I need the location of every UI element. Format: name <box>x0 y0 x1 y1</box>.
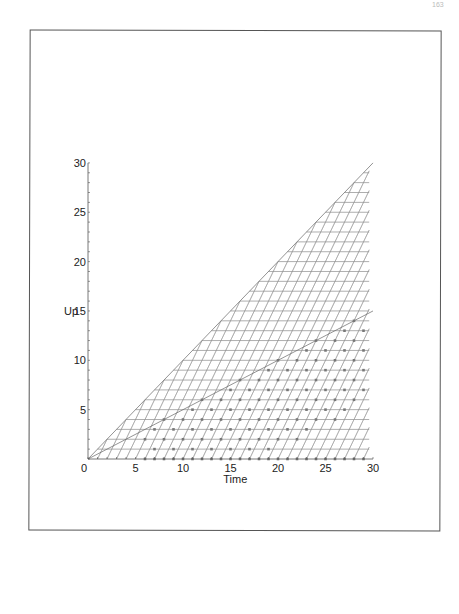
data-point <box>220 398 223 401</box>
data-point <box>296 418 299 421</box>
data-point <box>191 448 194 451</box>
data-point <box>324 369 327 372</box>
data-point <box>315 339 318 342</box>
data-point <box>286 428 289 431</box>
data-point <box>305 408 308 411</box>
data-point <box>277 418 280 421</box>
data-point <box>239 398 242 401</box>
data-point <box>182 438 185 441</box>
data-point <box>277 438 280 441</box>
data-point <box>229 408 232 411</box>
data-point <box>343 389 346 392</box>
data-point <box>248 448 251 451</box>
data-point <box>353 379 356 382</box>
data-point <box>267 369 270 372</box>
data-point <box>258 418 261 421</box>
data-point <box>305 349 308 352</box>
x-tick-label: 25 <box>319 462 331 474</box>
data-point <box>277 379 280 382</box>
data-point <box>163 418 166 421</box>
data-point <box>201 398 204 401</box>
data-point <box>343 369 346 372</box>
data-point <box>362 349 365 352</box>
data-point <box>182 418 185 421</box>
data-point <box>229 448 232 451</box>
y-tick-label: 5 <box>80 404 86 416</box>
x-tick-label: 10 <box>177 462 189 474</box>
data-point <box>334 359 337 362</box>
data-point <box>324 389 327 392</box>
data-point <box>315 398 318 401</box>
data-point <box>315 359 318 362</box>
data-point <box>334 339 337 342</box>
data-point <box>315 418 318 421</box>
grid-line-slant <box>316 348 369 459</box>
data-point <box>362 329 365 332</box>
data-point <box>305 369 308 372</box>
data-point <box>324 349 327 352</box>
data-point <box>305 389 308 392</box>
x-tick-label: 30 <box>367 462 379 474</box>
y-tick-label: 10 <box>74 354 86 366</box>
data-point <box>343 408 346 411</box>
grid-line-slant <box>335 388 369 459</box>
data-point <box>210 408 213 411</box>
data-point <box>296 359 299 362</box>
data-point <box>286 408 289 411</box>
data-point <box>334 398 337 401</box>
data-point <box>296 438 299 441</box>
data-point <box>296 379 299 382</box>
data-point <box>239 438 242 441</box>
data-point <box>277 359 280 362</box>
data-point <box>220 418 223 421</box>
y-tick-label: 20 <box>74 256 86 268</box>
y-tick-label: 25 <box>74 206 86 218</box>
data-point <box>267 389 270 392</box>
data-point <box>267 428 270 431</box>
data-point <box>296 398 299 401</box>
data-point <box>353 320 356 323</box>
reference-line <box>88 311 373 459</box>
data-point <box>172 448 175 451</box>
grid-line-slant <box>345 408 370 459</box>
data-point <box>144 438 147 441</box>
data-point <box>220 438 223 441</box>
data-point <box>191 408 194 411</box>
data-point <box>191 428 194 431</box>
data-point <box>172 428 175 431</box>
x-tick-label: 0 <box>81 462 87 474</box>
y-axis-label: Up <box>64 305 78 317</box>
x-axis-label: Time <box>223 473 247 485</box>
data-point <box>201 418 204 421</box>
data-point <box>248 389 251 392</box>
data-point <box>305 428 308 431</box>
lattice-path-chart: 05101520253051015202530TimeUp <box>0 0 459 614</box>
data-point <box>324 408 327 411</box>
data-point <box>277 398 280 401</box>
data-point <box>334 418 337 421</box>
grid-line-slant <box>250 210 370 459</box>
data-point <box>210 428 213 431</box>
x-tick-label: 5 <box>132 462 138 474</box>
grid-line-slant <box>231 171 370 459</box>
data-point <box>286 369 289 372</box>
data-point <box>239 418 242 421</box>
data-point <box>248 408 251 411</box>
data-point <box>153 448 156 451</box>
data-point <box>315 379 318 382</box>
data-point <box>210 448 213 451</box>
data-point <box>229 428 232 431</box>
data-point <box>362 369 365 372</box>
data-point <box>343 329 346 332</box>
data-point <box>248 428 251 431</box>
data-point <box>353 359 356 362</box>
grid-line-slant <box>354 427 369 459</box>
grid-line-slant <box>326 368 370 459</box>
data-point <box>258 379 261 382</box>
data-point <box>267 448 270 451</box>
data-point <box>229 389 232 392</box>
y-tick-label: 30 <box>74 157 86 169</box>
data-point <box>286 389 289 392</box>
data-point <box>239 379 242 382</box>
data-point <box>201 438 204 441</box>
